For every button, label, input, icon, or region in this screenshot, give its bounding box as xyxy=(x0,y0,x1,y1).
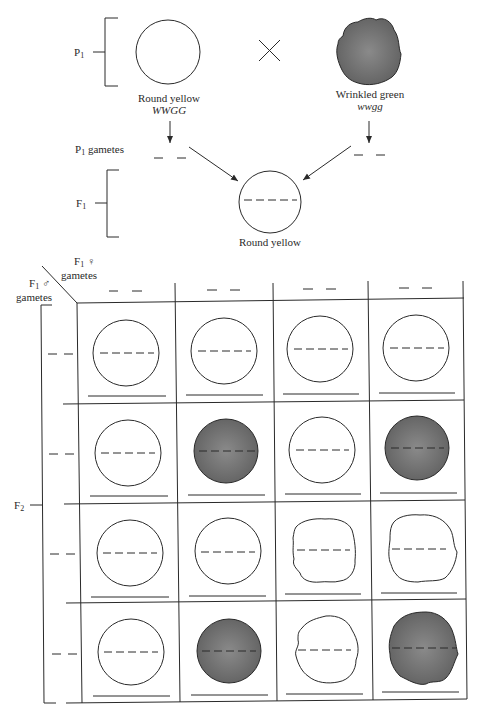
female-label-sub: 1 xyxy=(80,260,84,269)
f2-label: F2 xyxy=(14,499,24,515)
seed-round-yellow xyxy=(195,518,261,584)
right-parent-phenotype: Wrinkled green xyxy=(336,88,404,100)
right-parent-genotype: wwgg xyxy=(357,100,383,112)
seed-wrinkled-yellow xyxy=(389,515,457,582)
punnett-row-2 xyxy=(90,416,457,496)
male-gametes-header: F1 ♂ gametes xyxy=(28,278,52,303)
cross-icon xyxy=(259,40,280,61)
p1-bracket xyxy=(93,18,118,86)
f2-bracket xyxy=(30,305,56,703)
f1-round-yellow-seed xyxy=(239,171,301,233)
arrow-left-gametes-to-f1 xyxy=(189,147,238,181)
p1-label: P1 xyxy=(74,46,84,62)
f1-bracket xyxy=(95,170,119,237)
female-gametes-header: F1 ♀ gametes xyxy=(74,256,97,281)
f1-label: F1 xyxy=(76,197,86,213)
left-parent-genotype: WWGG xyxy=(152,104,186,116)
punnett-row-3 xyxy=(91,515,457,597)
female-gamete-blanks xyxy=(109,288,432,291)
p1-gametes-label: P1 gametes xyxy=(75,143,124,159)
f2-label-sub: 2 xyxy=(20,504,24,513)
punnett-row-1 xyxy=(88,315,455,396)
male-gametes-text: gametes xyxy=(16,291,52,303)
round-yellow-parent-seed xyxy=(136,20,200,84)
diagram-canvas xyxy=(0,0,482,706)
male-label-sub: 1 xyxy=(35,282,39,291)
f1-label-sub: 1 xyxy=(82,202,86,211)
p1-label-sub: 1 xyxy=(80,51,84,60)
f1-phenotype: Round yellow xyxy=(239,236,301,248)
female-gametes-text: gametes xyxy=(61,269,97,281)
wrinkled-green-parent-seed xyxy=(337,18,401,84)
female-symbol-icon: ♀ xyxy=(87,255,95,267)
seed-wrinkled-yellow xyxy=(296,616,358,683)
male-symbol-icon: ♂ xyxy=(42,277,50,289)
arrow-right-gametes-to-f1 xyxy=(303,146,351,180)
p1-gametes-text: gametes xyxy=(85,143,124,155)
left-parent-phenotype: Round yellow xyxy=(138,92,200,104)
